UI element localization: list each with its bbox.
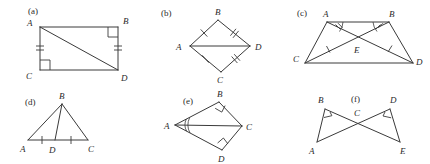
figure-c-canvas: (c) A B C D E xyxy=(285,0,430,85)
figure-b-caption: (b) xyxy=(161,8,172,18)
vertex-label-b: B xyxy=(217,89,223,99)
vertex-label-e: E xyxy=(353,45,360,55)
vertex-label-e: E xyxy=(399,146,406,156)
right-angle-mark-b xyxy=(324,112,332,118)
figure-c-caption: (c) xyxy=(297,8,307,18)
vertex-label-b: B xyxy=(318,95,324,105)
segment-bd xyxy=(218,20,250,46)
vertex-label-b: B xyxy=(123,16,129,26)
segment-ad xyxy=(175,125,222,150)
vertex-label-a: A xyxy=(308,146,315,156)
figure-a-caption: (a) xyxy=(28,6,38,16)
figure-e-canvas: (e) A B C D xyxy=(145,85,290,164)
vertex-label-b: B xyxy=(59,91,65,101)
figure-a-canvas: (a) A B C D xyxy=(0,0,145,85)
right-angle-mark-b xyxy=(108,27,118,37)
geometry-figure-board: (a) A B C D (b) xyxy=(0,0,430,164)
vertex-label-c: C xyxy=(246,122,253,132)
vertex-label-a: A xyxy=(163,121,170,131)
segment-bc xyxy=(62,104,88,140)
vertex-label-c: C xyxy=(293,54,300,64)
vertex-label-d: D xyxy=(389,95,397,105)
segment-bd-cevian xyxy=(55,104,62,140)
segment-ab xyxy=(317,109,325,142)
vertex-label-d: D xyxy=(415,57,423,67)
angle-arc-b xyxy=(373,22,377,32)
figure-panel-c: (c) A B C D E xyxy=(285,0,430,85)
segment-ac xyxy=(305,22,327,63)
segment-ad-diagonal xyxy=(40,27,118,70)
vertex-label-a: A xyxy=(322,9,329,19)
figure-panel-b: (b) A B C D xyxy=(145,0,290,85)
vertex-label-b: B xyxy=(389,9,395,19)
segment-ab xyxy=(28,104,62,140)
right-angle-mark-d xyxy=(383,112,391,118)
segment-dc xyxy=(221,46,250,72)
figure-d-caption: (d) xyxy=(25,97,36,107)
right-angle-mark-c xyxy=(40,60,50,70)
figure-panel-f: (f) A B C D E xyxy=(285,85,430,164)
figure-e-caption: (e) xyxy=(183,96,193,106)
figure-panel-d: (d) A B C D xyxy=(0,85,145,164)
figure-panel-e: (e) A B C D xyxy=(145,85,290,164)
segment-ad-diagonal xyxy=(327,22,413,63)
vertex-label-a: A xyxy=(175,42,182,52)
figure-f-canvas: (f) A B C D E xyxy=(285,85,430,164)
tick-ed-1 xyxy=(388,46,392,53)
right-angle-mark-d xyxy=(218,138,228,144)
figure-d-canvas: (d) A B C D xyxy=(0,85,145,164)
segment-bc xyxy=(219,102,242,126)
vertex-label-d: D xyxy=(48,145,56,155)
vertex-label-c: C xyxy=(26,71,33,81)
vertex-label-c: C xyxy=(354,108,361,118)
vertex-label-c: C xyxy=(217,75,224,85)
vertex-label-d: D xyxy=(254,42,262,52)
segment-dc xyxy=(222,126,242,150)
tick-ca-1 xyxy=(202,55,209,62)
vertex-label-a: A xyxy=(19,144,26,154)
segment-ab xyxy=(175,102,219,125)
vertex-label-c: C xyxy=(88,144,95,154)
figure-b-canvas: (b) A B C D xyxy=(145,0,290,85)
vertex-label-d: D xyxy=(120,73,128,83)
segment-be xyxy=(325,109,400,142)
figure-panel-a: (a) A B C D xyxy=(0,0,145,85)
figure-f-caption: (f) xyxy=(351,94,360,104)
segment-de xyxy=(390,109,400,142)
vertex-label-d: D xyxy=(217,154,225,164)
vertex-label-a: A xyxy=(26,18,33,28)
vertex-label-b: B xyxy=(215,7,221,17)
